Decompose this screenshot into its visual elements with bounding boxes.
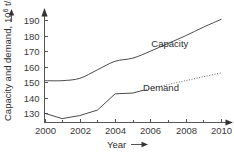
y-axis-tick-labels: 130140150160170180190: [24, 15, 40, 119]
line-chart: 130140150160170180190 200020022004200620…: [0, 0, 234, 154]
series-group: [45, 19, 222, 118]
x-axis-tick-labels: 200020022004200620082010: [35, 125, 232, 136]
x-tick-label: 2010: [211, 125, 232, 136]
x-tick-label: 2004: [105, 125, 126, 136]
y-tick-label: 180: [24, 31, 40, 42]
y-title-arrow-icon: [9, 9, 14, 16]
y-axis-title-group: Capacity and demand,106 t/a: [2, 0, 15, 121]
demand-series-line: [45, 90, 144, 118]
y-axis-arrow-icon: [41, 8, 47, 17]
y-tick-label: 170: [24, 46, 40, 57]
y-tick-label: 130: [24, 108, 40, 119]
capacity-series-line: [45, 19, 222, 80]
x-axis-title: Year: [107, 139, 126, 150]
demand-series-label: Demand: [143, 82, 179, 93]
x-axis-title-group: Year: [107, 139, 148, 150]
x-tick-label: 2006: [140, 125, 161, 136]
capacity-series-label: Capacity: [151, 38, 188, 49]
chart-figure: 130140150160170180190 200020022004200620…: [0, 0, 234, 154]
y-axis-ticks: [45, 21, 49, 114]
axes: [41, 8, 233, 125]
y-tick-label: 150: [24, 77, 40, 88]
y-axis-title-unit-tail: t/a: [2, 0, 13, 9]
x-tick-label: 2002: [70, 125, 91, 136]
y-tick-label: 190: [24, 15, 40, 26]
y-tick-label: 140: [24, 93, 40, 104]
x-title-arrow-icon: [142, 142, 149, 147]
x-tick-label: 2008: [176, 125, 197, 136]
x-axis-ticks: [46, 119, 222, 123]
y-tick-label: 160: [24, 62, 40, 73]
x-tick-label: 2000: [35, 125, 56, 136]
y-axis-title-main: Capacity and demand,: [2, 26, 13, 121]
